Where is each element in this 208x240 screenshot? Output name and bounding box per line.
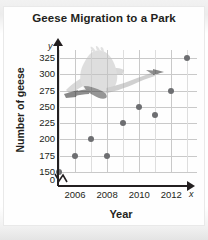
x-axis-label: Year [46,208,196,220]
gridline-vertical [187,50,188,172]
y-tick-label: 225 [25,117,55,128]
x-axis-line [58,185,189,187]
gridline-horizontal [59,172,197,173]
data-point [168,88,174,94]
x-tick-label: 2012 [154,189,188,200]
gridline-vertical [155,50,156,172]
axis-break-icon [54,173,68,187]
x-tick-label: 2008 [90,189,124,200]
chart-card: Geese Migration to a Park Number of gees… [0,0,208,240]
y-tick-label: 150 [25,166,55,177]
y-tick-label: 275 [25,85,55,96]
data-point [120,120,126,126]
y-tick-label: 300 [25,68,55,79]
y-tick-label: 325 [25,52,55,63]
x-tick-label: 2010 [122,189,156,200]
y-axis-line [57,44,59,186]
gridline-vertical [139,50,140,172]
gridline-horizontal [59,91,197,92]
data-point [104,153,110,159]
gridline-vertical [171,50,172,172]
y-tick-labels: 0150175200225250275300325 [22,0,55,200]
gridline-horizontal [59,139,197,140]
gridline-vertical [91,50,92,172]
gridline-horizontal [59,123,197,124]
gridline-vertical [59,50,60,172]
gridline-horizontal [59,156,197,157]
x-tick-labels: 2006200820102012 [0,189,208,205]
data-point [72,153,78,159]
y-tick-label: 250 [25,101,55,112]
y-tick-label: 175 [25,150,55,161]
gridline-horizontal [59,107,197,108]
plot-area [59,50,197,172]
x-tick-label: 2006 [58,189,92,200]
gridline-vertical [123,50,124,172]
data-point [88,136,94,142]
data-point [136,104,142,110]
y-tick-label: 200 [25,133,55,144]
data-point [152,112,158,118]
gridline-horizontal [59,58,197,59]
gridline-horizontal [59,74,197,75]
data-point [184,55,190,61]
